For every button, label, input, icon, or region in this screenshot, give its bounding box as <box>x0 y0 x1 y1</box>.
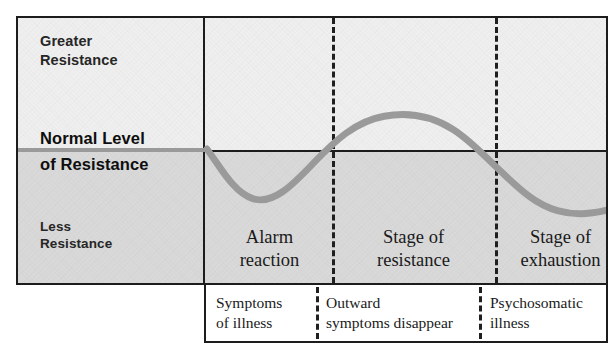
plot-area: Alarm reaction Stage of resistance Stage… <box>207 18 606 283</box>
symptoms-strip: Symptoms of illness Outward symptoms dis… <box>204 285 608 343</box>
symptoms-strip-inner: Symptoms of illness Outward symptoms dis… <box>206 285 606 341</box>
label-normal-level-line2: of Resistance <box>40 152 149 178</box>
symptom-resistance: Outward symptoms disappear <box>326 293 486 333</box>
label-greater-resistance-line1: Greater <box>40 32 118 51</box>
stage-label-exhaustion-line2: exhaustion <box>495 249 608 272</box>
label-less-resistance: Less Resistance <box>40 218 112 253</box>
symptom-exhaustion-line2: illness <box>490 313 610 333</box>
label-less-resistance-line1: Less <box>40 218 112 235</box>
label-normal-level-line1: Normal Level <box>40 126 149 152</box>
label-less-resistance-line2: Resistance <box>40 235 112 252</box>
stage-label-exhaustion: Stage of exhaustion <box>495 226 608 272</box>
chart-frame: Greater Resistance Normal Level of Resis… <box>16 16 608 285</box>
symptom-alarm: Symptoms of illness <box>216 293 320 333</box>
symptom-alarm-line1: Symptoms <box>216 293 320 313</box>
symptom-resistance-line2: symptoms disappear <box>326 313 486 333</box>
resistance-axis-labels: Greater Resistance Normal Level of Resis… <box>18 18 205 283</box>
symptom-exhaustion: Psychosomatic illness <box>490 293 610 333</box>
stage-label-alarm-line2: reaction <box>207 249 332 272</box>
gas-diagram: Greater Resistance Normal Level of Resis… <box>0 0 616 358</box>
stage-label-exhaustion-line1: Stage of <box>495 226 608 249</box>
label-normal-level: Normal Level of Resistance <box>40 126 149 177</box>
symptom-exhaustion-line1: Psychosomatic <box>490 293 610 313</box>
label-greater-resistance-line2: Resistance <box>40 51 118 70</box>
symptom-alarm-line2: of illness <box>216 313 320 333</box>
stage-label-resistance: Stage of resistance <box>332 226 495 272</box>
symptom-resistance-line1: Outward <box>326 293 486 313</box>
stage-label-resistance-line1: Stage of <box>332 226 495 249</box>
label-greater-resistance: Greater Resistance <box>40 32 118 69</box>
stage-label-alarm: Alarm reaction <box>207 226 332 272</box>
stage-label-resistance-line2: resistance <box>332 249 495 272</box>
stage-label-alarm-line1: Alarm <box>207 226 332 249</box>
